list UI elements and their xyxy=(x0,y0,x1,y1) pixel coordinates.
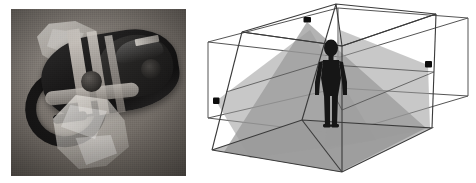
person-foot-left xyxy=(323,124,331,128)
ceiling-camera xyxy=(304,17,312,23)
inner-box-partition xyxy=(342,14,436,46)
photo-vignette xyxy=(11,9,186,176)
person-leg-left xyxy=(324,95,330,126)
vr-headset-photograph xyxy=(11,9,186,176)
person-leg-right xyxy=(332,95,338,126)
figure-root xyxy=(0,0,476,183)
person-head xyxy=(324,40,338,57)
camera-coverage-room-diagram xyxy=(190,0,476,183)
inner-box-edge xyxy=(432,14,436,128)
room-diagram-svg xyxy=(190,0,476,183)
view-cone-group xyxy=(216,22,430,172)
person-foot-right xyxy=(331,124,339,128)
left-wall-camera xyxy=(213,98,220,105)
right-wall-camera xyxy=(425,61,432,68)
person-neck xyxy=(329,55,334,60)
person-torso xyxy=(321,60,341,96)
